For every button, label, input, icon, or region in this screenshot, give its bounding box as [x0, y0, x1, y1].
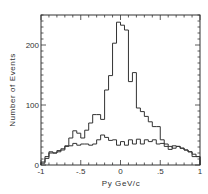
y-tick-label: 200	[26, 41, 40, 50]
x-tick-label: 0	[118, 167, 123, 176]
y-tick-label: 100	[26, 101, 40, 110]
x-tick-label: .5	[157, 167, 164, 176]
x-tick-label: -.5	[76, 167, 86, 176]
histogram-chart: -1-.50.510100200 Py GeV/c Number of Even…	[0, 0, 208, 194]
x-tick-label: 1	[198, 167, 203, 176]
x-axis-title: Py GeV/c	[102, 179, 141, 188]
y-axis-title: Number of Events	[8, 53, 17, 127]
y-tick-label: 0	[35, 161, 40, 170]
